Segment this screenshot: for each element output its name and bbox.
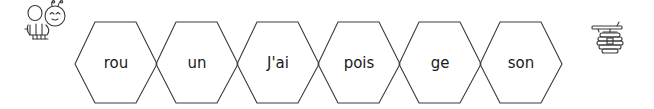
bee-icon: [25, 1, 65, 39]
hexagon-chain: [75, 22, 562, 103]
hexagon-label-2: un: [187, 54, 206, 72]
hexagon-label-6: son: [508, 54, 535, 72]
hexagon-label-3: J'ai: [266, 54, 289, 72]
hexagon-label-5: ge: [431, 54, 450, 72]
hexagon-label-4: pois: [344, 54, 375, 72]
hexagon-label-1: rou: [104, 54, 129, 72]
beehive-icon: [592, 22, 623, 53]
